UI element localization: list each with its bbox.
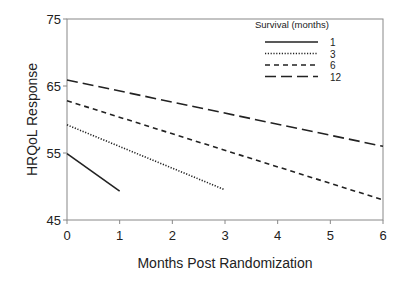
x-tick-label: 6 (379, 228, 386, 243)
x-axis-label: Months Post Randomization (137, 255, 312, 271)
y-axis-label: HRQoL Response (24, 63, 40, 176)
legend-title: Survival (months) (255, 19, 329, 30)
y-tick-label: 75 (47, 12, 61, 27)
plot-area: 455565750123456Months Post Randomization… (24, 12, 387, 271)
y-tick-label: 55 (47, 146, 61, 161)
x-tick-label: 1 (116, 228, 123, 243)
x-tick-label: 2 (169, 228, 176, 243)
line-chart: 455565750123456Months Post Randomization… (0, 0, 404, 281)
series-line-6 (67, 101, 383, 200)
legend-label: 3 (330, 49, 336, 60)
x-tick-label: 4 (274, 228, 281, 243)
legend-label: 6 (330, 60, 336, 71)
y-tick-label: 65 (47, 79, 61, 94)
x-tick-label: 0 (63, 228, 70, 243)
series-line-3 (67, 125, 225, 190)
x-tick-label: 5 (327, 228, 334, 243)
legend-label: 12 (330, 72, 342, 83)
series-line-1 (67, 154, 120, 192)
x-tick-label: 3 (221, 228, 228, 243)
legend-label: 1 (330, 37, 336, 48)
series-line-12 (67, 80, 383, 146)
y-tick-label: 45 (47, 213, 61, 228)
